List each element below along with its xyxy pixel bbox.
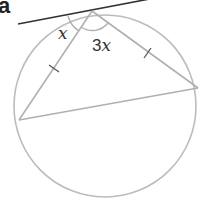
- figure-label: a: [0, 0, 11, 18]
- tangent-line: [18, 0, 160, 24]
- chord-base: [19, 88, 198, 120]
- tick-mark-left: [49, 65, 59, 72]
- angle-label-3x: 3x: [92, 35, 111, 55]
- geometry-diagram: a x 3x: [0, 0, 199, 198]
- angle-arc-x: [68, 16, 79, 31]
- angle-arc-3x: [81, 23, 108, 31]
- angle-label-x: x: [58, 23, 68, 43]
